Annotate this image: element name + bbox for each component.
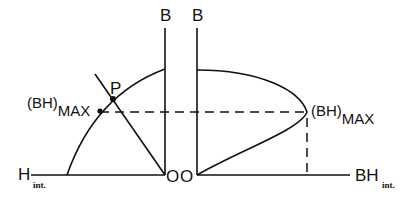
left-bhmax-label-main: (BH) — [27, 94, 58, 111]
right-bhmax-label: (BH)MAX — [311, 103, 374, 118]
right-bhmax-label-subscript: MAX — [342, 110, 375, 127]
left-b-axis-label: B — [160, 7, 171, 24]
left-h-axis-subscript: int. — [33, 181, 46, 190]
load-line — [95, 74, 165, 175]
point-p-label: P — [110, 80, 121, 97]
right-b-axis-label: B — [192, 7, 203, 24]
right-origin-label: O — [180, 168, 193, 185]
energy-product-curve — [197, 70, 307, 175]
right-bhmax-label-main: (BH) — [311, 102, 342, 119]
bhmax-point-marker — [97, 108, 102, 113]
right-bh-axis-label: BH — [355, 167, 379, 184]
left-bhmax-label-subscript: MAX — [58, 102, 91, 119]
left-h-axis-label: H — [18, 166, 30, 183]
left-origin-label: O — [166, 168, 179, 185]
left-bhmax-label: (BH)MAX — [27, 95, 90, 110]
right-bh-axis-subscript: int. — [382, 181, 395, 190]
